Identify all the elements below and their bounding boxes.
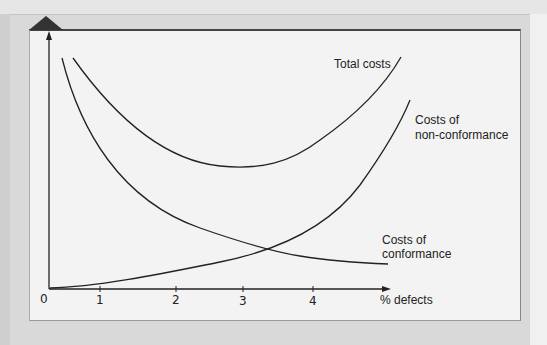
label-conformance-line2: conformance (382, 247, 452, 261)
curve-costs-of-non-conformance (50, 100, 410, 288)
tick-label-3: 3 (239, 294, 247, 308)
label-conformance-line1: Costs of (382, 233, 427, 247)
y-axis-arrow-icon (46, 31, 52, 40)
tick-label-4: 4 (309, 294, 317, 308)
tick-label-1: 1 (96, 293, 104, 307)
tick-label-0: 0 (40, 292, 48, 306)
tick-label-2: 2 (172, 293, 180, 307)
label-non-conformance-line2: non-conformance (415, 128, 509, 142)
curve-total-costs (73, 57, 401, 167)
corner-tab-icon (29, 16, 63, 30)
label-total-costs: Total costs (334, 57, 391, 71)
label-non-conformance-line1: Costs of (415, 113, 460, 127)
cost-of-quality-chart: 0 1 2 3 4 % defects Total costs Costs of… (0, 0, 547, 345)
x-axis-arrow-icon (382, 286, 391, 292)
curve-costs-of-conformance (62, 58, 388, 264)
x-axis-label: % defects (380, 293, 433, 307)
